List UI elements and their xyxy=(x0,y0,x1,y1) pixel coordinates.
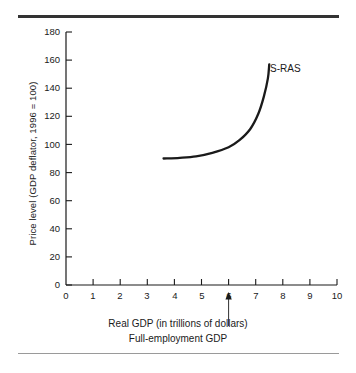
x-tick-label-2: 2 xyxy=(110,290,130,301)
y-tick-label-20: 20 xyxy=(34,251,60,262)
y-tick-label-160: 160 xyxy=(34,54,60,65)
x-tick-label-9: 9 xyxy=(300,290,320,301)
x-tick-label-10: 10 xyxy=(327,290,347,301)
y-tick-label-40: 40 xyxy=(34,223,60,234)
series-label-s-ras: S-RAS xyxy=(270,63,301,74)
x-axis-ticks xyxy=(93,279,337,285)
y-tick-label-80: 80 xyxy=(34,167,60,178)
chart-figure: Price level (GDP deflator, 1996 = 100) 0… xyxy=(0,0,356,373)
y-tick-label-120: 120 xyxy=(34,110,60,121)
x-tick-label-1: 1 xyxy=(83,290,103,301)
x-tick-label-6: 6 xyxy=(219,290,239,301)
x-tick-label-5: 5 xyxy=(192,290,212,301)
x-tick-label-0: 0 xyxy=(56,290,76,301)
x-tick-label-4: 4 xyxy=(165,290,185,301)
bottom-divider-rule xyxy=(18,353,339,354)
x-axis-title: Real GDP (in trillions of dollars) xyxy=(0,318,356,329)
y-axis-ticks xyxy=(66,32,72,285)
series-line-s-ras xyxy=(164,64,270,158)
y-tick-label-60: 60 xyxy=(34,195,60,206)
x-tick-label-7: 7 xyxy=(246,290,266,301)
annotation-label-full-employment-gdp: Full-employment GDP xyxy=(0,333,356,344)
y-tick-label-100: 100 xyxy=(34,139,60,150)
y-tick-label-0: 0 xyxy=(34,279,60,290)
y-tick-label-140: 140 xyxy=(34,82,60,93)
y-tick-label-180: 180 xyxy=(34,26,60,37)
x-tick-label-8: 8 xyxy=(273,290,293,301)
x-tick-label-3: 3 xyxy=(137,290,157,301)
